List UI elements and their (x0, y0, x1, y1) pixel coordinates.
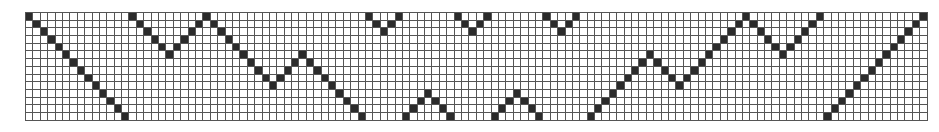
grid-cell (107, 90, 113, 97)
grid-cell (203, 36, 209, 43)
grid-cell (558, 90, 564, 97)
grid-cell (366, 44, 372, 51)
grid-cell (388, 67, 394, 74)
grid-cell (418, 36, 424, 43)
grid-cell (817, 28, 823, 35)
pixel-grid (25, 12, 928, 121)
grid-cell (905, 21, 911, 28)
grid-cell (654, 36, 660, 43)
grid-cell (63, 59, 69, 66)
grid-cell (869, 75, 875, 82)
grid-cell (772, 21, 778, 28)
grid-cell (263, 13, 269, 20)
grid-cell (166, 21, 172, 28)
grid-cell (159, 13, 165, 20)
grid-cell (336, 21, 342, 28)
grid-cell (314, 113, 320, 120)
grid-cell (226, 36, 232, 43)
grid-cell (226, 51, 232, 58)
grid-cell (56, 82, 62, 89)
grid-cell (654, 113, 660, 120)
grid-cell (137, 13, 143, 20)
grid-cell (351, 51, 357, 58)
grid-cell (529, 59, 535, 66)
grid-cell (566, 98, 572, 105)
grid-cell (159, 51, 165, 58)
grid-cell (728, 13, 734, 20)
grid-cell (876, 67, 882, 74)
grid-cell (580, 90, 586, 97)
grid-cell (115, 98, 121, 105)
grid-cell (440, 36, 446, 43)
grid-cell (891, 98, 897, 105)
grid-cell (63, 75, 69, 82)
grid-cell (529, 113, 535, 120)
grid-cell (455, 105, 461, 112)
grid-cell (573, 105, 579, 112)
grid-cell (344, 75, 350, 82)
grid-cell (499, 51, 505, 58)
grid-cell (189, 44, 195, 51)
grid-cell (211, 98, 217, 105)
grid-cell (780, 67, 786, 74)
grid-cell (736, 82, 742, 89)
grid-cell (499, 28, 505, 35)
grid-cell (913, 98, 919, 105)
grid-cell (676, 75, 682, 82)
grid-cell (891, 67, 897, 74)
grid-cell (366, 28, 372, 35)
grid-cell (802, 90, 808, 97)
grid-cell (765, 82, 771, 89)
grid-cell (100, 67, 106, 74)
grid-cell (329, 59, 335, 66)
grid-cell (484, 21, 490, 28)
grid-cell (721, 67, 727, 74)
grid-cell (676, 105, 682, 112)
grid-cell (226, 59, 232, 66)
grid-cell (189, 59, 195, 66)
grid-cell (580, 82, 586, 89)
grid-cell (122, 21, 128, 28)
grid-cell (506, 67, 512, 74)
grid-cell (728, 113, 734, 120)
grid-cell (854, 90, 860, 97)
grid-cell (115, 82, 121, 89)
grid-cell (469, 67, 475, 74)
grid-cell (625, 51, 631, 58)
grid-cell (521, 51, 527, 58)
grid-cell (809, 44, 815, 51)
grid-cell (26, 36, 32, 43)
grid-cell (322, 13, 328, 20)
grid-cell (218, 105, 224, 112)
grid-cell (432, 36, 438, 43)
grid-cell (211, 13, 217, 20)
grid-cell (63, 90, 69, 97)
grid-cell (56, 67, 62, 74)
grid-cell (159, 105, 165, 112)
grid-cell (743, 90, 749, 97)
grid-cell (721, 44, 727, 51)
grid-cell (891, 36, 897, 43)
grid-cell (832, 59, 838, 66)
grid-cell (469, 36, 475, 43)
grid-cell (107, 44, 113, 51)
grid-cell (499, 13, 505, 20)
grid-cell (861, 36, 867, 43)
grid-cell (314, 51, 320, 58)
grid-cell (462, 21, 468, 28)
grid-cell (33, 98, 39, 105)
grid-cell (285, 59, 291, 66)
grid-cell (314, 67, 320, 74)
grid-cell (129, 113, 135, 120)
grid-cell (647, 36, 653, 43)
grid-cell (129, 82, 135, 89)
grid-cell (869, 67, 875, 74)
grid-cell (521, 36, 527, 43)
grid-cell (573, 44, 579, 51)
grid-cell (248, 21, 254, 28)
grid-cell (499, 36, 505, 43)
grid-cell (802, 75, 808, 82)
grid-cell (795, 36, 801, 43)
grid-cell (558, 113, 564, 120)
grid-cell (684, 75, 690, 82)
